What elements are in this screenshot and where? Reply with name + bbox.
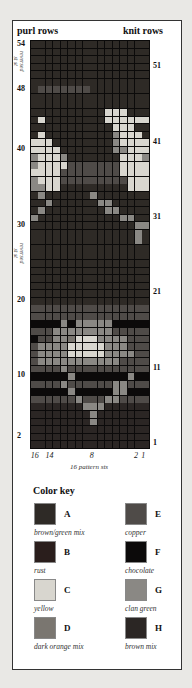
chart-cell xyxy=(46,132,53,139)
chart-cell xyxy=(120,343,127,350)
chart-cell xyxy=(135,381,142,388)
chart-cell xyxy=(120,305,127,312)
chart-cell xyxy=(46,79,53,86)
chart-cell xyxy=(90,230,97,237)
chart-cell xyxy=(90,154,97,161)
chart-cell xyxy=(68,207,75,214)
chart-cell xyxy=(38,117,45,124)
knitting-chart-grid xyxy=(30,40,150,449)
color-code: B xyxy=(64,547,70,557)
chart-cell xyxy=(53,177,60,184)
chart-cell xyxy=(98,79,105,86)
chart-cell xyxy=(105,184,112,191)
chart-cell xyxy=(98,381,105,388)
chart-cell xyxy=(98,154,105,161)
chart-cell xyxy=(128,124,135,131)
chart-cell xyxy=(38,351,45,358)
chart-cell xyxy=(90,109,97,116)
chart-cell xyxy=(142,305,149,312)
chart-cell xyxy=(76,313,83,320)
chart-cell xyxy=(83,222,90,229)
chart-cell xyxy=(98,71,105,78)
chart-cell xyxy=(83,268,90,275)
chart-cell xyxy=(61,366,68,373)
color-code: D xyxy=(64,623,71,633)
chart-cell xyxy=(98,207,105,214)
chart-cell xyxy=(90,298,97,305)
chart-cell xyxy=(83,94,90,101)
chart-cell xyxy=(90,132,97,139)
chart-cell xyxy=(31,328,38,335)
chart-cell xyxy=(31,132,38,139)
chart-cell xyxy=(142,56,149,63)
chart-cell xyxy=(128,109,135,116)
chart-cell xyxy=(46,230,53,237)
chart-cell xyxy=(76,237,83,244)
chart-cell xyxy=(128,351,135,358)
chart-cell xyxy=(83,71,90,78)
chart-cell xyxy=(76,260,83,267)
chart-cell xyxy=(61,49,68,56)
chart-cell xyxy=(90,215,97,222)
chart-cell xyxy=(113,268,120,275)
chart-cell xyxy=(46,351,53,358)
chart-cell xyxy=(142,434,149,441)
chart-cell xyxy=(68,419,75,426)
chart-cell xyxy=(83,305,90,312)
chart-cell xyxy=(68,237,75,244)
chart-cell xyxy=(83,336,90,343)
chart-cell xyxy=(83,252,90,259)
chart-cell xyxy=(76,388,83,395)
chart-cell xyxy=(61,434,68,441)
chart-cell xyxy=(61,215,68,222)
chart-cell xyxy=(105,396,112,403)
chart-cell xyxy=(90,419,97,426)
chart-cell xyxy=(83,313,90,320)
chart-cell xyxy=(90,313,97,320)
chart-cell xyxy=(83,275,90,282)
chart-cell xyxy=(120,283,127,290)
chart-cell xyxy=(98,49,105,56)
chart-cell xyxy=(76,222,83,229)
chart-cell xyxy=(76,192,83,199)
chart-cell xyxy=(46,441,53,448)
chart-cell xyxy=(76,230,83,237)
chart-cell xyxy=(105,411,112,418)
chart-cell xyxy=(68,109,75,116)
chart-cell xyxy=(113,373,120,380)
chart-cell xyxy=(83,162,90,169)
chart-cell xyxy=(142,200,149,207)
chart-cell xyxy=(31,192,38,199)
chart-cell xyxy=(76,215,83,222)
chart-cell xyxy=(142,215,149,222)
chart-cell xyxy=(142,71,149,78)
chart-cell xyxy=(120,403,127,410)
chart-cell xyxy=(113,328,120,335)
chart-cell xyxy=(53,298,60,305)
chart-cell xyxy=(31,388,38,395)
chart-cell xyxy=(113,343,120,350)
chart-cell xyxy=(120,358,127,365)
chart-cell xyxy=(105,192,112,199)
chart-cell xyxy=(83,419,90,426)
chart-cell xyxy=(76,79,83,86)
chart-cell xyxy=(76,343,83,350)
chart-cell xyxy=(98,139,105,146)
chart-cell xyxy=(76,336,83,343)
chart-cell xyxy=(90,366,97,373)
chart-cell xyxy=(46,177,53,184)
chart-cell xyxy=(98,336,105,343)
chart-cell xyxy=(68,71,75,78)
chart-cell xyxy=(113,290,120,297)
chart-cell xyxy=(135,86,142,93)
chart-cell xyxy=(90,101,97,108)
chart-cell xyxy=(68,192,75,199)
chart-cell xyxy=(46,320,53,327)
chart-cell xyxy=(68,343,75,350)
chart-cell xyxy=(120,252,127,259)
chart-cell xyxy=(38,94,45,101)
chart-cell xyxy=(31,56,38,63)
stitch-tick: 2 xyxy=(134,451,138,460)
chart-cell xyxy=(120,215,127,222)
chart-cell xyxy=(61,222,68,229)
